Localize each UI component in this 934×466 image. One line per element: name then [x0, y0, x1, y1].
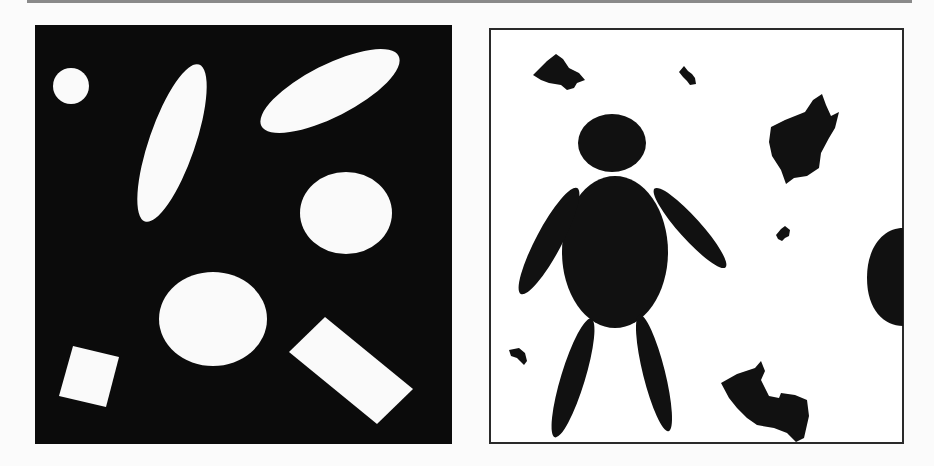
top-rule — [27, 0, 912, 3]
small-circle-shape — [53, 68, 89, 104]
shapes-binary-image-panel — [35, 25, 452, 444]
silhouette-binary-image-panel — [489, 28, 904, 444]
shapes-image — [35, 25, 452, 444]
silhouette-image — [489, 28, 904, 444]
right-circle-shape — [300, 172, 392, 254]
figure-head — [578, 114, 646, 172]
bottom-circle-shape — [159, 272, 267, 366]
